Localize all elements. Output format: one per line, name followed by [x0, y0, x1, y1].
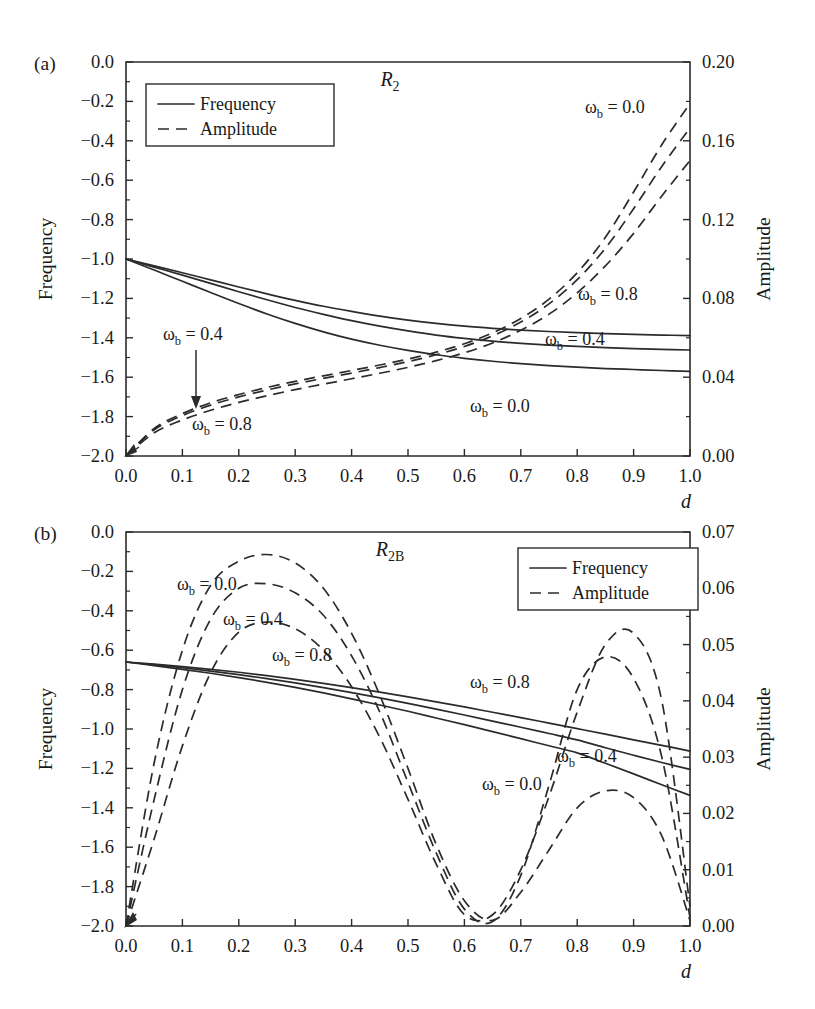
annot-b-freq-omega-00: ωb = 0.0 — [482, 774, 542, 798]
annot-a-amp-omega-08: ωb = 0.8 — [192, 414, 252, 438]
panel-b: 0.00.10.20.30.40.50.60.70.80.91.0d0.0−0.… — [34, 522, 774, 982]
annot-a-amp-omega-00-omega: ω — [585, 97, 597, 117]
legend-label-frequency-a: Frequency — [200, 94, 276, 114]
xticklabel-a-2: 0.2 — [227, 466, 250, 486]
yticklabel-right-b-5: 0.02 — [702, 803, 734, 823]
legend-label-frequency-b: Frequency — [572, 558, 648, 578]
annot-a-amp-omega-00-value: = 0.0 — [603, 97, 645, 117]
yaxis-title-right-b: Amplitude — [753, 687, 774, 770]
yaxis-title-left-b: Frequency — [35, 688, 56, 771]
yticklabel-left-b-9: −1.8 — [80, 877, 114, 897]
xticklabel-b-1: 0.1 — [171, 936, 194, 956]
annot-b-amp-omega-08: ωb = 0.8 — [272, 645, 332, 669]
xticklabel-b-7: 0.7 — [509, 936, 532, 956]
annotation-arrow-head-a — [191, 396, 201, 409]
annot-a-freq-omega-08-value: = 0.8 — [596, 284, 638, 304]
yticklabel-right-b-6: 0.01 — [702, 860, 734, 880]
yticklabel-left-b-5: −1.0 — [80, 719, 114, 739]
annot-a-amp-omega-04: ωb = 0.4 — [163, 324, 223, 348]
xticklabel-a-7: 0.7 — [509, 466, 532, 486]
annot-a-freq-omega-08-omega: ω — [578, 284, 590, 304]
annot-b-amp-omega-00: ωb = 0.0 — [177, 574, 237, 598]
xticklabel-b-2: 0.2 — [227, 936, 250, 956]
xaxis-title-a: d — [681, 490, 692, 512]
annot-a-freq-omega-00-omega: ω — [470, 396, 482, 416]
curve-a-2 — [126, 259, 690, 371]
annot-a-amp-omega-04-omega: ω — [163, 324, 175, 344]
figure-container: 0.00.10.20.30.40.50.60.70.80.91.0d0.0−0.… — [0, 0, 815, 1009]
yticklabel-right-b-4: 0.03 — [702, 747, 734, 767]
annot-a-freq-omega-00: ωb = 0.0 — [470, 396, 530, 420]
annot-b-freq-omega-04-omega: ω — [557, 746, 569, 766]
xticklabel-b-10: 1.0 — [678, 936, 701, 956]
xticklabel-a-8: 0.8 — [566, 466, 589, 486]
xticklabel-a-4: 0.4 — [340, 466, 363, 486]
annot-b-amp-omega-04-value: = 0.4 — [241, 609, 283, 629]
yticklabel-left-a-10: −2.0 — [80, 446, 114, 466]
curve-b-5 — [126, 622, 690, 926]
legend-label-amplitude-b: Amplitude — [572, 583, 649, 603]
plot-title-b: R2B — [375, 538, 405, 564]
yticklabel-left-a-8: −1.6 — [80, 367, 114, 387]
xticklabel-a-3: 0.3 — [284, 466, 307, 486]
yticklabel-left-b-0: 0.0 — [91, 522, 114, 542]
yticklabel-left-a-6: −1.2 — [80, 288, 114, 308]
yticklabel-right-a-1: 0.16 — [702, 131, 734, 151]
annot-b-freq-omega-08-omega: ω — [470, 672, 482, 692]
annot-b-freq-omega-08: ωb = 0.8 — [470, 672, 530, 696]
xticklabel-b-4: 0.4 — [340, 936, 363, 956]
annot-b-amp-omega-08-value: = 0.8 — [290, 645, 332, 665]
yticklabel-left-b-2: −0.4 — [80, 601, 114, 621]
annot-a-freq-omega-04-value: = 0.4 — [563, 329, 605, 349]
annot-a-amp-omega-00: ωb = 0.0 — [585, 97, 645, 121]
plot-title-main-b: R — [375, 538, 388, 560]
yticklabel-left-a-7: −1.4 — [80, 328, 114, 348]
annot-b-freq-omega-04-value: = 0.4 — [575, 746, 617, 766]
yticklabel-right-a-5: 0.00 — [702, 446, 734, 466]
annot-b-freq-omega-00-value: = 0.0 — [500, 774, 542, 794]
annot-a-freq-omega-04: ωb = 0.4 — [545, 329, 605, 353]
yticklabel-right-b-0: 0.07 — [702, 522, 734, 542]
annot-b-amp-omega-00-value: = 0.0 — [195, 574, 237, 594]
yticklabel-right-a-0: 0.20 — [702, 52, 734, 72]
yticklabel-right-b-7: 0.00 — [702, 916, 734, 936]
plot-title-sub-a: 2 — [393, 79, 400, 94]
xticklabel-a-1: 0.1 — [171, 466, 194, 486]
xticklabel-a-10: 1.0 — [678, 466, 701, 486]
yticklabel-left-a-3: −0.6 — [80, 170, 114, 190]
xticklabel-b-6: 0.6 — [453, 936, 476, 956]
yticklabel-left-b-6: −1.2 — [80, 758, 114, 778]
yticklabel-left-a-5: −1.0 — [80, 249, 114, 269]
yticklabel-left-a-2: −0.4 — [80, 131, 114, 151]
yticklabel-left-b-4: −0.8 — [80, 680, 114, 700]
yticklabel-right-b-2: 0.05 — [702, 635, 734, 655]
annot-a-freq-omega-00-value: = 0.0 — [488, 396, 530, 416]
yticklabel-right-b-3: 0.04 — [702, 691, 734, 711]
plot-title-sub-b: 2B — [388, 549, 404, 564]
annot-b-amp-omega-04-omega: ω — [223, 609, 235, 629]
yaxis-title-left-a: Frequency — [35, 218, 56, 301]
yticklabel-right-b-1: 0.06 — [702, 578, 734, 598]
figure-svg: 0.00.10.20.30.40.50.60.70.80.91.0d0.0−0.… — [0, 0, 815, 1009]
xticklabel-b-5: 0.5 — [396, 936, 419, 956]
curve-b-2 — [126, 662, 690, 751]
xticklabel-b-9: 0.9 — [622, 936, 645, 956]
annot-b-freq-omega-00-omega: ω — [482, 774, 494, 794]
yticklabel-left-b-3: −0.6 — [80, 640, 114, 660]
curve-b-0 — [126, 662, 690, 795]
yticklabel-left-a-0: 0.0 — [91, 52, 114, 72]
panel-label-b: (b) — [34, 523, 57, 545]
yticklabel-left-b-10: −2.0 — [80, 916, 114, 936]
plot-title-a: R2 — [379, 68, 399, 94]
annot-b-freq-omega-04: ωb = 0.4 — [557, 746, 617, 770]
annot-a-amp-omega-08-value: = 0.8 — [210, 414, 252, 434]
panel-a: 0.00.10.20.30.40.50.60.70.80.91.0d0.0−0.… — [34, 52, 774, 512]
annot-a-amp-omega-04-value: = 0.4 — [181, 324, 223, 344]
annot-a-amp-omega-08-omega: ω — [192, 414, 204, 434]
yticklabel-left-a-9: −1.8 — [80, 407, 114, 427]
yaxis-title-right-a: Amplitude — [753, 217, 774, 300]
yticklabel-left-a-4: −0.8 — [80, 210, 114, 230]
curve-a-5 — [126, 161, 690, 457]
annot-b-amp-omega-04: ωb = 0.4 — [223, 609, 283, 633]
yticklabel-left-b-7: −1.4 — [80, 798, 114, 818]
